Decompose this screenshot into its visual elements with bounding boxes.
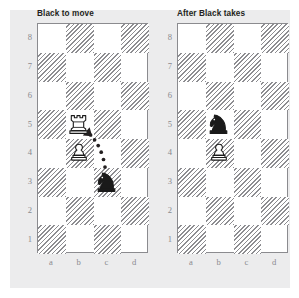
square-c1[interactable] — [94, 225, 122, 254]
rank-label-4: 4 — [18, 147, 32, 157]
chess-diagram-figure: Black to move 87654321 abcd — [0, 0, 299, 298]
square-b4[interactable] — [206, 139, 234, 168]
square-c5[interactable] — [94, 110, 122, 139]
square-d6[interactable] — [121, 82, 149, 111]
file-label-c: c — [93, 257, 121, 267]
rank-label-2: 2 — [18, 205, 32, 215]
right-board-title: After Black takes — [177, 9, 245, 18]
square-b6[interactable] — [206, 82, 234, 111]
file-label-a: a — [37, 257, 65, 267]
square-c8[interactable] — [94, 24, 122, 53]
square-b5[interactable] — [206, 110, 234, 139]
square-a3[interactable] — [38, 168, 66, 197]
right-chessboard[interactable] — [177, 23, 288, 253]
square-d7[interactable] — [121, 53, 149, 82]
square-c5[interactable] — [234, 110, 262, 139]
square-a2[interactable] — [38, 197, 66, 226]
square-d8[interactable] — [261, 24, 289, 53]
rank-label-5: 5 — [18, 119, 32, 129]
square-a6[interactable] — [178, 82, 206, 111]
square-b2[interactable] — [206, 197, 234, 226]
square-d3[interactable] — [121, 168, 149, 197]
rank-label-3: 3 — [158, 176, 172, 186]
file-label-b: b — [65, 257, 93, 267]
square-c8[interactable] — [234, 24, 262, 53]
file-label-d: d — [260, 257, 288, 267]
square-d5[interactable] — [261, 110, 289, 139]
square-c6[interactable] — [234, 82, 262, 111]
square-a5[interactable] — [178, 110, 206, 139]
rank-label-7: 7 — [18, 61, 32, 71]
left-board-block: Black to move 87654321 abcd — [10, 0, 150, 278]
square-a8[interactable] — [178, 24, 206, 53]
square-d1[interactable] — [261, 225, 289, 254]
square-b4[interactable] — [66, 139, 94, 168]
square-b3[interactable] — [66, 168, 94, 197]
square-a2[interactable] — [178, 197, 206, 226]
rank-label-7: 7 — [158, 61, 172, 71]
square-d1[interactable] — [121, 225, 149, 254]
square-b6[interactable] — [66, 82, 94, 111]
square-a5[interactable] — [38, 110, 66, 139]
rank-label-1: 1 — [158, 234, 172, 244]
rank-label-6: 6 — [158, 90, 172, 100]
square-b2[interactable] — [66, 197, 94, 226]
square-b8[interactable] — [206, 24, 234, 53]
rank-label-8: 8 — [18, 32, 32, 42]
square-a7[interactable] — [178, 53, 206, 82]
square-d2[interactable] — [261, 197, 289, 226]
square-c2[interactable] — [234, 197, 262, 226]
square-d4[interactable] — [121, 139, 149, 168]
square-c3[interactable] — [234, 168, 262, 197]
square-d5[interactable] — [121, 110, 149, 139]
square-d2[interactable] — [121, 197, 149, 226]
rank-label-3: 3 — [18, 176, 32, 186]
square-a1[interactable] — [38, 225, 66, 254]
file-label-c: c — [233, 257, 261, 267]
square-b5[interactable] — [66, 110, 94, 139]
square-d3[interactable] — [261, 168, 289, 197]
rank-label-1: 1 — [18, 234, 32, 244]
square-c2[interactable] — [94, 197, 122, 226]
rank-label-8: 8 — [158, 32, 172, 42]
square-b3[interactable] — [206, 168, 234, 197]
square-d8[interactable] — [121, 24, 149, 53]
square-c1[interactable] — [234, 225, 262, 254]
square-d4[interactable] — [261, 139, 289, 168]
square-c3[interactable] — [94, 168, 122, 197]
square-d7[interactable] — [261, 53, 289, 82]
file-label-b: b — [205, 257, 233, 267]
file-label-d: d — [120, 257, 148, 267]
square-b7[interactable] — [206, 53, 234, 82]
square-c4[interactable] — [234, 139, 262, 168]
rank-label-4: 4 — [158, 147, 172, 157]
square-c4[interactable] — [94, 139, 122, 168]
square-b7[interactable] — [66, 53, 94, 82]
square-c7[interactable] — [94, 53, 122, 82]
file-label-a: a — [177, 257, 205, 267]
square-c7[interactable] — [234, 53, 262, 82]
rank-label-5: 5 — [158, 119, 172, 129]
square-a3[interactable] — [178, 168, 206, 197]
square-a8[interactable] — [38, 24, 66, 53]
square-a1[interactable] — [178, 225, 206, 254]
square-c6[interactable] — [94, 82, 122, 111]
square-a6[interactable] — [38, 82, 66, 111]
rank-label-2: 2 — [158, 205, 172, 215]
square-a7[interactable] — [38, 53, 66, 82]
left-chessboard[interactable] — [37, 23, 148, 253]
square-b8[interactable] — [66, 24, 94, 53]
rank-label-6: 6 — [18, 90, 32, 100]
square-b1[interactable] — [66, 225, 94, 254]
square-a4[interactable] — [178, 139, 206, 168]
square-d6[interactable] — [261, 82, 289, 111]
right-board-block: After Black takes 87654321 abcd — [150, 0, 290, 278]
square-a4[interactable] — [38, 139, 66, 168]
square-b1[interactable] — [206, 225, 234, 254]
left-board-title: Black to move — [37, 9, 94, 18]
